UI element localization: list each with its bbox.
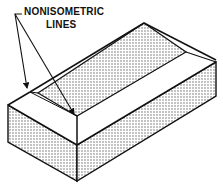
isometric-block-drawing [0,0,223,188]
